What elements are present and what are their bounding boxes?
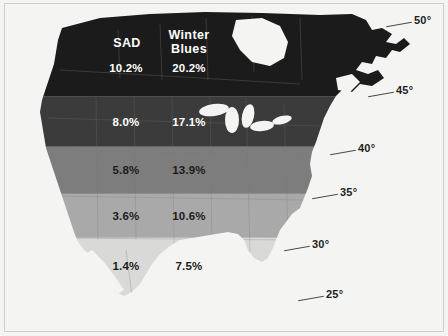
band-2-winter-blues-value: 17.1% (158, 116, 220, 128)
column-header-winter-blues: Winter Blues (158, 28, 220, 56)
lat-30-label: 30° (312, 238, 329, 250)
band-4-sad-value: 3.6% (96, 210, 156, 222)
lat-50-label: 50° (414, 14, 431, 26)
band-2-sad-value: 8.0% (96, 116, 156, 128)
band-3-sad-value: 5.8% (96, 164, 156, 176)
band-3-winter-blues-value: 13.9% (158, 164, 220, 176)
band-5-sad-value: 1.4% (96, 260, 156, 272)
band-1-fill (0, 0, 448, 96)
band-2-fill (0, 96, 448, 146)
band-1-sad-value: 10.2% (96, 62, 156, 74)
lat-35-label: 35° (340, 186, 357, 198)
lat-25-label: 25° (326, 288, 343, 300)
band-1-winter-blues-value: 20.2% (158, 62, 220, 74)
map-figure: SAD Winter Blues 10.2% 20.2% 8.0% 17.1% … (0, 0, 448, 336)
band-3-fill (0, 146, 448, 193)
continent-shape (0, 0, 448, 336)
lat-40-label: 40° (358, 142, 375, 154)
band-4-fill (0, 193, 448, 237)
lat-45-label: 45° (396, 84, 413, 96)
band-5-fill (0, 237, 448, 336)
band-4-winter-blues-value: 10.6% (158, 210, 220, 222)
landmass-band-stack (0, 0, 448, 336)
column-header-sad: SAD (100, 36, 154, 50)
band-5-winter-blues-value: 7.5% (158, 260, 220, 272)
